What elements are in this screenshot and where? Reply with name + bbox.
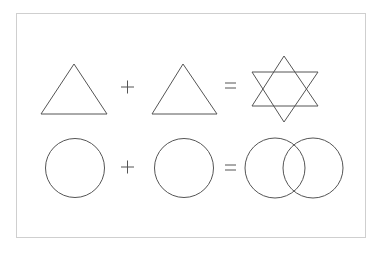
triangle-right <box>152 64 217 114</box>
hexagram-result <box>252 56 318 122</box>
triangle-left <box>41 64 107 114</box>
plus-sign-row2 <box>121 161 134 174</box>
circle-right <box>155 139 214 198</box>
equals-sign-row2 <box>225 165 236 170</box>
overlapping-circles-result <box>245 138 343 198</box>
equation-diagram <box>0 0 383 256</box>
equals-sign-row1 <box>225 83 236 88</box>
circle-left <box>46 139 105 198</box>
plus-sign-row1 <box>121 81 134 94</box>
